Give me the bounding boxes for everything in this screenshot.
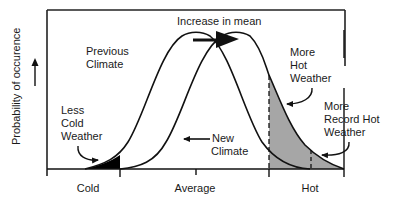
record-hot-pointer-arrow-icon: [322, 142, 349, 155]
increase-in-mean-arrow-icon: [193, 31, 239, 48]
y-axis-up-arrow-icon: [32, 58, 39, 86]
new-climate-label-line1: New: [212, 132, 234, 144]
previous-climate-label-line1: Previous: [86, 45, 129, 57]
record-hot-label-line3: Weather: [324, 126, 366, 138]
less-cold-label-line1: Less: [61, 104, 85, 116]
less-cold-label-line3: Weather: [61, 130, 103, 142]
x-label-hot: Hot: [301, 182, 318, 194]
climate-shift-diagram: Probability of occurence Increase in mea…: [0, 0, 395, 205]
increase-in-mean-label: Increase in mean: [177, 15, 261, 27]
x-label-average: Average: [175, 182, 216, 194]
less-cold-pointer-arrow-icon: [78, 146, 98, 160]
record-hot-label-line1: More: [324, 100, 349, 112]
more-hot-pointer-arrow-icon: [287, 88, 312, 104]
x-label-cold: Cold: [77, 182, 100, 194]
y-axis-label: Probability of occurence: [10, 28, 22, 145]
new-climate-label-line2: Climate: [211, 145, 248, 157]
less-cold-label-line2: Cold: [61, 117, 84, 129]
more-hot-label-line2: Hot: [290, 59, 307, 71]
more-hot-label-line1: More: [290, 46, 315, 58]
record-hot-label-line2: Record Hot: [324, 113, 380, 125]
more-hot-label-line3: Weather: [290, 72, 332, 84]
previous-climate-label-line2: Climate: [86, 58, 123, 70]
